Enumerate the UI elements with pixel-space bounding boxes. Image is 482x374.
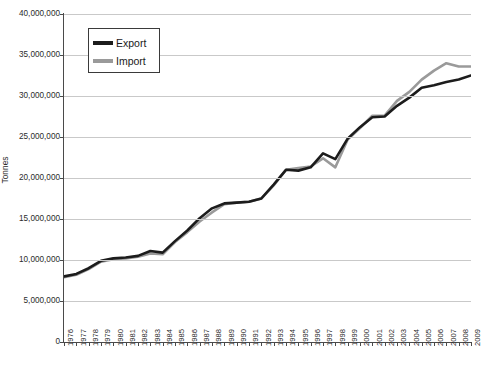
legend-swatch-export (93, 41, 113, 44)
y-tick-label: 25,000,000 (2, 133, 60, 141)
x-tick-mark (397, 342, 398, 346)
x-tick-label: 1998 (339, 329, 346, 346)
legend-swatch-import (93, 59, 113, 62)
x-tick-mark (311, 342, 312, 346)
x-tick-label: 1999 (351, 329, 358, 346)
x-tick-mark (261, 342, 262, 346)
y-tick-mark (60, 96, 64, 97)
x-tick-label: 1990 (240, 329, 247, 346)
x-tick-label: 1996 (314, 329, 321, 346)
y-tick-mark (60, 301, 64, 302)
x-tick-mark (150, 342, 151, 346)
x-tick-mark (274, 342, 275, 346)
y-tick-mark (60, 219, 64, 220)
legend-item-import: Import (93, 52, 159, 70)
x-tick-label: 1988 (215, 329, 222, 346)
x-tick-mark (212, 342, 213, 346)
x-tick-mark (335, 342, 336, 346)
x-tick-mark (249, 342, 250, 346)
x-tick-mark (459, 342, 460, 346)
x-tick-mark (385, 342, 386, 346)
x-tick-mark (200, 342, 201, 346)
y-axis-title: Tonnes (0, 156, 10, 183)
y-tick-label: 40,000,000 (2, 10, 60, 18)
gridline (64, 260, 471, 261)
x-tick-label: 1987 (203, 329, 210, 346)
x-tick-label: 1989 (228, 329, 235, 346)
x-tick-label: 1992 (265, 329, 272, 346)
x-tick-mark (64, 342, 65, 346)
x-tick-mark (126, 342, 127, 346)
legend-item-export: Export (93, 34, 159, 52)
x-tick-mark (138, 342, 139, 346)
x-tick-label: 2004 (413, 329, 420, 346)
y-axis-ticks: 05,000,00010,000,00015,000,00020,000,000… (0, 0, 60, 374)
x-tick-label: 1994 (289, 329, 296, 346)
x-tick-label: 1982 (141, 329, 148, 346)
x-tick-mark (89, 342, 90, 346)
x-tick-mark (372, 342, 373, 346)
x-tick-label: 1986 (191, 329, 198, 346)
x-tick-mark (323, 342, 324, 346)
x-tick-label: 2000 (363, 329, 370, 346)
x-tick-label: 2007 (450, 329, 457, 346)
y-tick-label: 35,000,000 (2, 51, 60, 59)
x-axis-ticks: 1976197719781979198019811982198319841985… (0, 342, 478, 374)
x-tick-label: 1978 (92, 329, 99, 346)
x-tick-mark (360, 342, 361, 346)
x-tick-mark (237, 342, 238, 346)
x-tick-mark (101, 342, 102, 346)
x-tick-mark (422, 342, 423, 346)
x-tick-mark (298, 342, 299, 346)
x-tick-label: 2009 (474, 329, 481, 346)
x-tick-mark (224, 342, 225, 346)
legend-label-export: Export (116, 38, 146, 49)
x-tick-label: 1991 (252, 329, 259, 346)
x-tick-label: 1979 (104, 329, 111, 346)
x-tick-label: 1997 (326, 329, 333, 346)
x-tick-mark (113, 342, 114, 346)
y-tick-label: 5,000,000 (2, 297, 60, 305)
x-tick-label: 1981 (129, 329, 136, 346)
x-tick-mark (187, 342, 188, 346)
x-tick-mark (348, 342, 349, 346)
x-tick-mark (286, 342, 287, 346)
x-tick-label: 2006 (437, 329, 444, 346)
x-tick-label: 1985 (178, 329, 185, 346)
x-tick-label: 2001 (376, 329, 383, 346)
gridline (64, 96, 471, 97)
x-tick-mark (446, 342, 447, 346)
x-tick-label: 1983 (154, 329, 161, 346)
y-tick-label: 15,000,000 (2, 215, 60, 223)
x-tick-mark (76, 342, 77, 346)
gridline (64, 219, 471, 220)
y-tick-label: 30,000,000 (2, 92, 60, 100)
gridline (64, 137, 471, 138)
x-tick-label: 1977 (80, 329, 87, 346)
x-tick-label: 1980 (117, 329, 124, 346)
x-tick-label: 1976 (67, 329, 74, 346)
y-tick-mark (60, 178, 64, 179)
gridline (64, 14, 471, 15)
y-tick-mark (60, 14, 64, 15)
legend-label-import: Import (116, 56, 146, 67)
x-tick-mark (434, 342, 435, 346)
x-tick-label: 2005 (425, 329, 432, 346)
y-tick-mark (60, 137, 64, 138)
x-tick-mark (175, 342, 176, 346)
x-tick-label: 1984 (166, 329, 173, 346)
x-tick-label: 1995 (302, 329, 309, 346)
x-tick-label: 2003 (400, 329, 407, 346)
x-tick-mark (163, 342, 164, 346)
chart-legend: Export Import (88, 28, 160, 73)
x-tick-mark (409, 342, 410, 346)
y-tick-label: 20,000,000 (2, 174, 60, 182)
line-export (64, 76, 471, 277)
gridline (64, 178, 471, 179)
y-tick-label: 10,000,000 (2, 256, 60, 264)
y-tick-mark (60, 260, 64, 261)
y-tick-mark (60, 55, 64, 56)
x-tick-label: 2002 (388, 329, 395, 346)
x-tick-mark (471, 342, 472, 346)
